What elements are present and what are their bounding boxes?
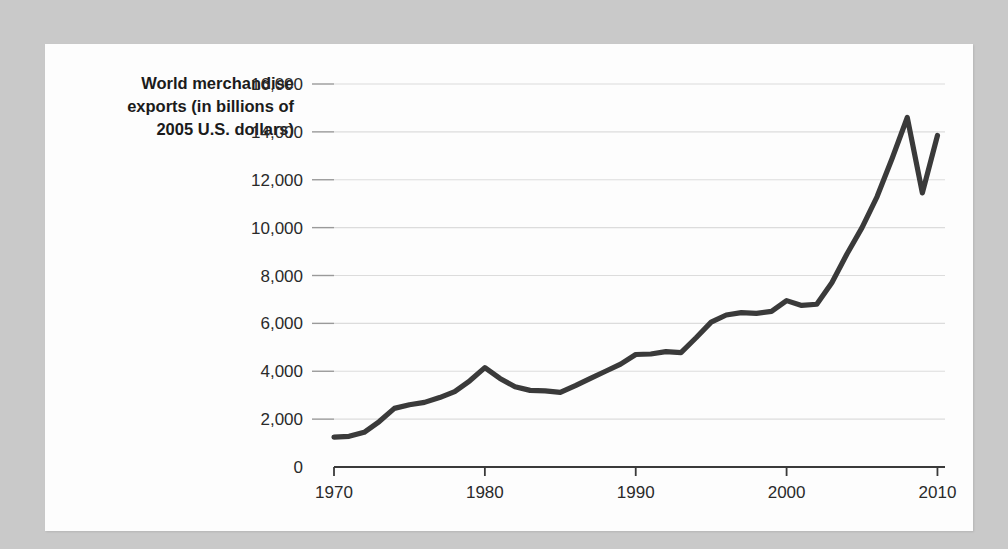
y-tick-label: 8,000	[260, 267, 303, 286]
y-tick-marks	[312, 84, 334, 419]
line-chart: World merchandise exports (in billions o…	[45, 44, 973, 531]
y-axis-title-line-2: exports (in billions of	[127, 97, 294, 115]
y-tick-label: 14,000	[251, 123, 303, 142]
chart-card: World merchandise exports (in billions o…	[45, 44, 973, 531]
data-series-line	[334, 118, 937, 438]
y-tick-label: 0	[294, 458, 303, 477]
y-tick-label: 16,000	[251, 75, 303, 94]
y-tick-label: 10,000	[251, 219, 303, 238]
figure-root: World merchandise exports (in billions o…	[0, 0, 1008, 549]
x-tick-label: 1970	[315, 483, 353, 502]
x-tick-label: 2010	[919, 483, 957, 502]
y-tick-label: 12,000	[251, 171, 303, 190]
gridlines	[334, 84, 945, 419]
x-tick-label: 2000	[768, 483, 806, 502]
x-tick-label: 1990	[617, 483, 655, 502]
y-tick-label: 4,000	[260, 362, 303, 381]
x-tick-label: 1980	[466, 483, 504, 502]
x-tick-labels: 19701980199020002010	[315, 483, 956, 502]
y-tick-labels: 02,0004,0006,0008,00010,00012,00014,0001…	[251, 75, 303, 477]
y-tick-label: 6,000	[260, 314, 303, 333]
x-tick-marks	[334, 467, 937, 476]
y-tick-label: 2,000	[260, 410, 303, 429]
